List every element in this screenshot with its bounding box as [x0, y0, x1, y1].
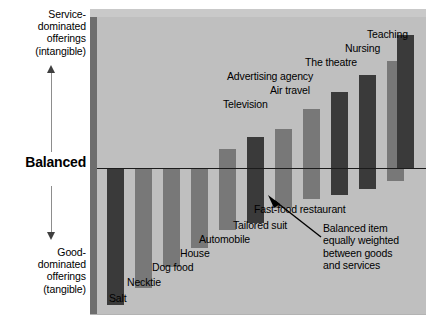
bar-label-necktie: Necktie [127, 277, 161, 289]
bar-advertising-lower[interactable] [359, 169, 376, 189]
down-arrow-shaft [51, 186, 52, 238]
bar-television[interactable] [303, 109, 320, 169]
axis-bottom-line-0: Good- [0, 246, 86, 258]
axis-bottom-line-2: offerings [0, 270, 86, 282]
plot-area: SaltNecktieDog foodHouseAutomobileTailor… [97, 17, 426, 314]
bar-the-theatre-lower[interactable] [387, 169, 404, 181]
axis-bottom-line-1: dominated [0, 258, 86, 270]
bar-label-nursing: Nursing [345, 43, 380, 55]
balanced-item-note: Balanced itemequally weightedbetween goo… [323, 222, 399, 272]
bar-label-the-theatre: The theatre [305, 57, 357, 69]
axis-bottom-label: Good-dominatedofferings(tangible) [0, 246, 86, 295]
bar-salt[interactable] [107, 169, 124, 305]
bar-label-house: House [180, 248, 210, 260]
y-axis-column: Service-dominatedofferings(intangible) B… [0, 0, 90, 326]
pointer-arrow-icon [265, 195, 325, 241]
up-arrow-shaft [51, 72, 52, 152]
chart-root: Service-dominatedofferings(intangible) B… [0, 0, 426, 326]
balanced-axis-label: Balanced [0, 154, 86, 170]
bar-label-advertising-agency: Advertising agency [227, 71, 313, 83]
axis-top-label: Service-dominatedofferings(intangible) [0, 8, 86, 57]
bar-label-automobile: Automobile [199, 234, 250, 246]
down-arrow-icon [47, 232, 55, 240]
bar-label-television: Television [223, 99, 268, 111]
annotation-line-0: Balanced item [323, 222, 399, 234]
bar-air-travel[interactable] [331, 92, 348, 169]
axis-top-line-3: (intangible) [0, 45, 86, 57]
axis-top-line-1: dominated [0, 20, 86, 32]
panel-left-bevel [90, 17, 97, 314]
bar-air-travel-lower[interactable] [331, 169, 348, 195]
bar-necktie[interactable] [135, 169, 152, 288]
up-arrow-icon [47, 65, 55, 73]
axis-top-line-0: Service- [0, 8, 86, 20]
bar-label-salt: Salt [109, 293, 127, 305]
axis-top-line-2: offerings [0, 32, 86, 44]
bar-teaching[interactable] [397, 35, 414, 169]
bar-advertising-agency[interactable] [359, 75, 376, 169]
baseline-balanced [97, 168, 426, 169]
annotation-line-3: and services [323, 259, 399, 271]
bar-tailored-suit[interactable] [247, 137, 264, 169]
bar-label-teaching: Teaching [367, 29, 408, 41]
axis-bottom-line-3: (tangible) [0, 283, 86, 295]
annotation-line-2: between goods [323, 247, 399, 259]
annotation-line-1: equally weighted [323, 234, 399, 246]
bar-label-air-travel: Air travel [270, 85, 310, 97]
bar-dog-food[interactable] [163, 169, 180, 267]
bar-automobile[interactable] [219, 149, 236, 169]
bar-fast-food-restaurant[interactable] [275, 129, 292, 169]
bar-label-dog-food: Dog food [152, 262, 193, 274]
